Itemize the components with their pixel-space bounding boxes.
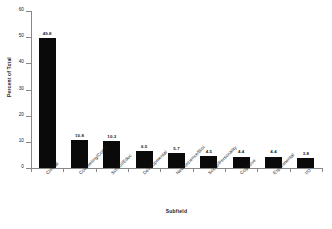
x-axis-title: Subfield [31,208,322,214]
bar-value-label: 4.4 [262,149,286,154]
bar-chart: Percent of Total 0102030405060 49.810.81… [0,0,332,229]
x-axis-tick [63,168,64,172]
y-axis-tick-label-wrap: 50 [0,34,24,40]
y-axis-tick-label: 10 [19,139,24,144]
y-axis-tick-label-wrap: 40 [0,60,24,66]
y-axis-tick-label: 30 [19,87,24,92]
x-axis-tick [193,168,194,172]
y-axis-tick-label: 40 [19,60,24,65]
y-axis-tick-label-wrap: 30 [0,87,24,93]
y-axis-tick-label-wrap: 20 [0,113,24,119]
x-axis-tick [257,168,258,172]
x-axis-tick [225,168,226,172]
x-axis-tick [31,168,32,172]
y-axis-tick-label: 60 [19,8,24,13]
bar[interactable] [297,158,314,168]
x-axis-tick [290,168,291,172]
y-axis-tick-label: 20 [19,113,24,118]
plot-area [31,11,322,168]
y-axis-tick-label: 50 [19,34,24,39]
y-axis-tick-label-wrap: 0 [0,165,24,171]
bar-value-label: 3.8 [294,151,318,156]
bar-value-label: 5.7 [165,146,189,151]
bar-value-label: 10.8 [68,133,92,138]
x-axis-tick [160,168,161,172]
x-axis-tick [322,168,323,172]
y-axis-title: Percent of Total [6,46,12,108]
bar-value-label: 10.3 [100,134,124,139]
y-axis-tick-label-wrap: 10 [0,139,24,145]
y-axis-tick-label: 0 [21,165,24,170]
x-axis-tick [128,168,129,172]
bar-value-label: 49.8 [35,31,59,36]
y-axis-tick-label-wrap: 60 [0,8,24,14]
bar[interactable] [39,38,56,168]
bar-value-label: 6.5 [132,144,156,149]
x-axis-tick [96,168,97,172]
